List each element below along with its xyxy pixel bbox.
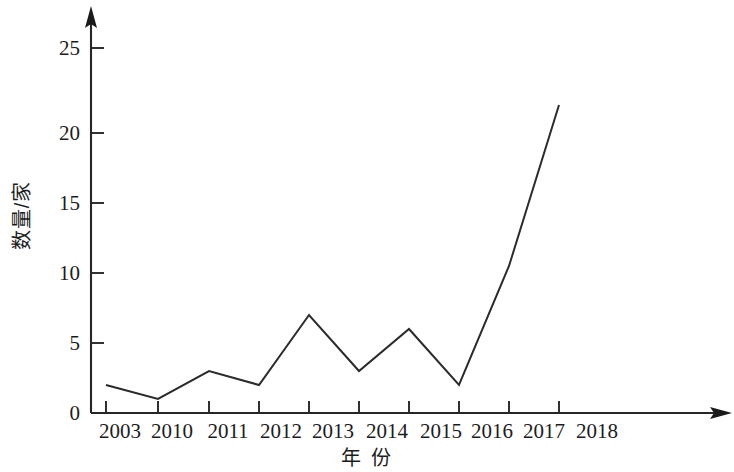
y-axis-group: 0 5 10 15 20 25 — [59, 6, 104, 425]
data-series-line — [106, 105, 559, 399]
x-tick-label-2015: 2015 — [420, 419, 462, 443]
y-axis-tick-labels: 0 5 10 15 20 25 — [59, 36, 80, 425]
x-tick-label-2018: 2018 — [576, 419, 618, 443]
y-tick-label-10: 10 — [59, 261, 80, 285]
y-axis-title: 数量/家 — [7, 180, 36, 250]
y-tick-label-15: 15 — [59, 191, 80, 215]
y-axis-title-container: 数量/家 — [4, 140, 38, 290]
x-tick-label-2011: 2011 — [207, 419, 248, 443]
x-tick-label-2016: 2016 — [471, 419, 513, 443]
x-axis-tick-labels: 2003 2010 2011 2012 2013 2014 2015 2016 … — [99, 419, 618, 443]
x-axis-title: 年 份 — [341, 447, 393, 469]
x-axis-ticks — [106, 401, 559, 413]
y-axis-ticks — [91, 48, 104, 343]
x-tick-label-2017: 2017 — [523, 419, 565, 443]
x-tick-label-2010: 2010 — [151, 419, 193, 443]
x-tick-label-2014: 2014 — [366, 419, 409, 443]
y-tick-label-20: 20 — [59, 121, 80, 145]
x-tick-label-2003: 2003 — [99, 419, 141, 443]
y-tick-label-0: 0 — [70, 401, 81, 425]
x-axis-group: 2003 2010 2011 2012 2013 2014 2015 2016 … — [91, 401, 732, 443]
x-tick-label-2013: 2013 — [312, 419, 354, 443]
line-chart-canvas: 0 5 10 15 20 25 — [0, 0, 734, 472]
chart-figure: 0 5 10 15 20 25 — [0, 0, 734, 472]
x-axis-title-container: 年 份 — [0, 442, 734, 471]
y-tick-label-5: 5 — [70, 331, 81, 355]
x-tick-label-2012: 2012 — [260, 419, 302, 443]
y-tick-label-25: 25 — [59, 36, 80, 60]
